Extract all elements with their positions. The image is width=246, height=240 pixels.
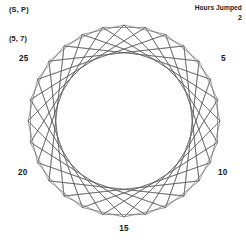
polygon-path [28,25,220,217]
tick-label-10: 10 [218,168,227,177]
polygon-path [49,46,199,196]
pair-label: (5, 7) [9,35,27,43]
polygon-path [38,35,211,208]
polygon-path [28,27,220,214]
polygon-path [30,27,217,214]
polygon-path [28,25,220,217]
polygon-path [30,25,217,217]
polygon-path [49,46,199,196]
polygon-path [38,35,211,208]
polygon-path [38,35,211,208]
hours-jumped-block: Hours Jumped 2 [195,5,242,21]
polygon-path-group [28,25,220,217]
hours-jumped-title: Hours Jumped [195,4,242,11]
polygon-path [30,27,217,214]
polygon-path [30,27,217,214]
tick-label-5: 5 [221,54,226,63]
hours-jumped-value: 2 [195,14,242,22]
tick-label-20: 20 [18,168,27,177]
polygon-path [38,35,211,208]
polygon-path [49,46,199,196]
sp-label: (S, P) [9,6,29,14]
star-polygon-figure [0,0,246,240]
polygon-path [30,27,217,214]
tick-label-15: 15 [116,224,132,233]
polygon-path [49,46,199,196]
tick-label-25: 25 [19,54,28,63]
diagram-canvas: (S, P) (5, 7) Hours Jumped 2 510152025 [0,0,246,240]
